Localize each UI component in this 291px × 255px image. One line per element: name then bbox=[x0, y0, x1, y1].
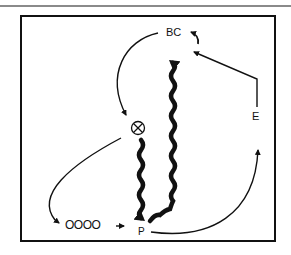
wavy-arrow-x-to-p bbox=[139, 140, 143, 218]
arrow-bc-to-x bbox=[117, 33, 158, 115]
wavy-arrow-p-to-bc bbox=[150, 63, 175, 221]
arrow-e-to-bc bbox=[194, 52, 257, 107]
arrow-bc-curl bbox=[191, 32, 198, 44]
diagram-canvas bbox=[0, 0, 291, 255]
arrow-x-to-circles bbox=[49, 138, 121, 223]
arrow-p-to-e bbox=[151, 150, 258, 233]
node-e: E bbox=[252, 111, 259, 122]
node-circles: OOOO bbox=[65, 219, 100, 231]
node-p: P bbox=[138, 227, 145, 237]
crossed-circle-icon bbox=[132, 122, 145, 135]
node-bc: BC bbox=[166, 27, 181, 38]
